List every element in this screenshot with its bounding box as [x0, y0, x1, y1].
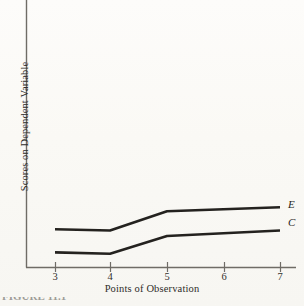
figure-caption-strip: FIGURE 11.1 — [0, 297, 304, 306]
series-label-experimental: E — [288, 199, 295, 210]
figure-container: 3 4 5 6 7 Points of Observation Scores o… — [0, 0, 304, 306]
series-label-control: C — [288, 217, 295, 228]
x-tick-label-6: 6 — [214, 272, 234, 283]
figure-caption-text: FIGURE 11.1 — [2, 297, 66, 302]
line-chart-plot — [0, 0, 304, 306]
x-tick-label-5: 5 — [157, 272, 177, 283]
x-tick-label-3: 3 — [45, 272, 65, 283]
x-axis-title: Points of Observation — [0, 283, 304, 294]
series-line-control — [55, 231, 280, 254]
series-line-experimental — [55, 207, 280, 230]
y-axis-title: Scores on Dependent Variable — [19, 47, 30, 207]
x-tick-label-4: 4 — [100, 272, 120, 283]
x-tick-label-7: 7 — [270, 272, 290, 283]
